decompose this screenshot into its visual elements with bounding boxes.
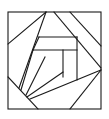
outer-square: [8, 12, 101, 109]
line-segments: [8, 12, 101, 109]
segment-long-diagonal-to-right-edge: [30, 70, 101, 99]
geometric-figure: [0, 0, 109, 119]
segment-top-diagonal-outer: [70, 12, 101, 46]
